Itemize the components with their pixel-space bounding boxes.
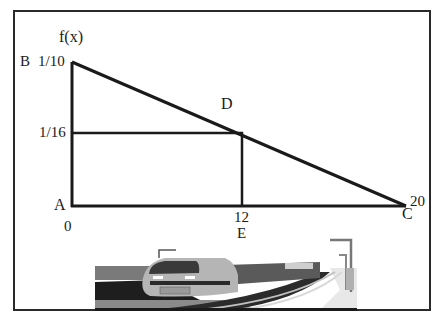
point-label-c: C bbox=[402, 206, 413, 222]
triangle-diagram bbox=[0, 0, 444, 320]
train-illustration bbox=[95, 240, 357, 311]
x-tick-12: 12 bbox=[234, 210, 249, 225]
point-label-e: E bbox=[237, 226, 246, 241]
point-label-a: A bbox=[54, 197, 66, 213]
point-label-d: D bbox=[221, 96, 233, 112]
y-tick-1-16: 1/16 bbox=[39, 125, 66, 140]
point-label-b: B bbox=[20, 54, 30, 69]
x-tick-0: 0 bbox=[64, 219, 72, 234]
axis-label-fx: f(x) bbox=[59, 29, 83, 45]
y-tick-1-10: 1/10 bbox=[38, 54, 65, 69]
